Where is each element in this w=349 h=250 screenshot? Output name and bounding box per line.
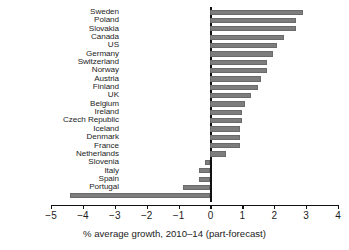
x-tick-mark — [338, 205, 339, 209]
bar — [210, 85, 257, 90]
bar — [210, 35, 283, 40]
x-tick-mark — [115, 205, 116, 209]
x-tick-label: 3 — [294, 210, 318, 221]
bar — [210, 43, 276, 48]
bar — [210, 10, 302, 15]
bar — [210, 143, 239, 148]
bar — [205, 160, 210, 165]
x-tick-mark — [210, 205, 211, 209]
x-tick-label: −5 — [39, 210, 63, 221]
bar — [210, 68, 267, 73]
x-tick-mark — [147, 205, 148, 209]
bar — [210, 151, 226, 156]
x-tick-label: −3 — [103, 210, 127, 221]
x-tick-label: 2 — [262, 210, 286, 221]
bar — [210, 60, 267, 65]
x-tick-mark — [51, 205, 52, 209]
x-axis-line — [51, 205, 338, 206]
x-tick-mark — [306, 205, 307, 209]
x-tick-label: 0 — [198, 210, 222, 221]
x-tick-mark — [274, 205, 275, 209]
x-tick-mark — [83, 205, 84, 209]
x-tick-mark — [242, 205, 243, 209]
bar — [210, 101, 244, 106]
x-tick-label: −1 — [167, 210, 191, 221]
bar-chart: SwedenPolandSlovakiaCanadaUSGermanySwitz… — [0, 0, 349, 250]
x-tick-label: 4 — [326, 210, 349, 221]
bar — [199, 177, 211, 182]
bar — [199, 168, 211, 173]
x-tick-mark — [179, 205, 180, 209]
x-axis-title: % average growth, 2010–14 (part-forecast… — [0, 228, 349, 239]
x-tick-label: −2 — [135, 210, 159, 221]
bar — [210, 26, 295, 31]
bar — [183, 185, 210, 190]
bar — [210, 93, 250, 98]
bar — [210, 51, 273, 56]
x-tick-label: −4 — [71, 210, 95, 221]
x-tick-label: 1 — [230, 210, 254, 221]
bar — [70, 193, 210, 198]
plot-area — [51, 8, 338, 200]
bar — [210, 118, 242, 123]
bar — [210, 76, 260, 81]
bar — [210, 110, 242, 115]
bar — [210, 135, 239, 140]
bar — [210, 18, 295, 23]
bar — [210, 126, 239, 131]
